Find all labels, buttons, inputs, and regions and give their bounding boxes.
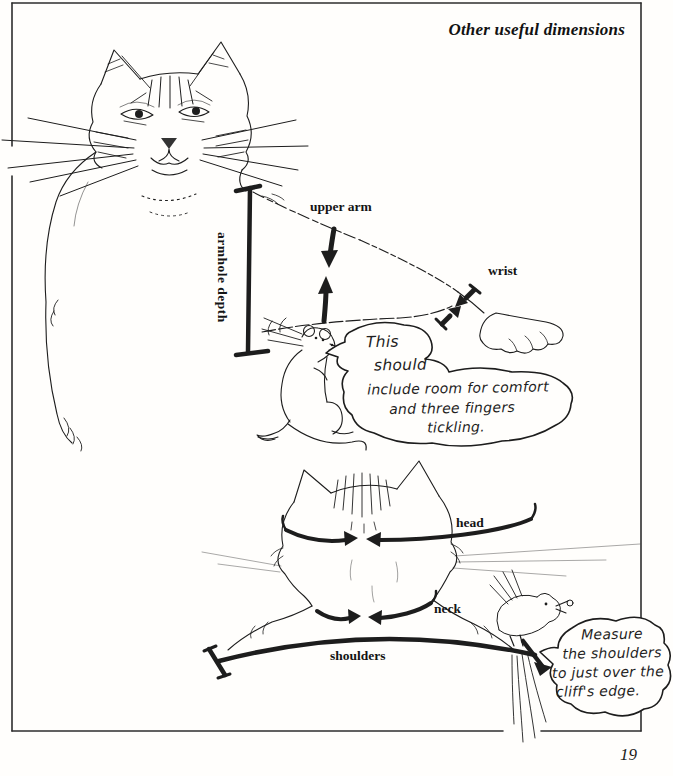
neck-dimension-line: [317, 591, 436, 625]
page-number: 19: [620, 745, 637, 765]
bird-bubble-line-1: Measure: [581, 625, 643, 642]
bird-bubble-line-3: to just over the: [552, 663, 664, 681]
label-upper-arm: upper arm: [310, 199, 372, 215]
book-page: Other useful dimensions armhole depth up…: [0, 0, 673, 776]
mouse-bubble-line-3: include room for comfort: [367, 378, 549, 397]
label-head: head: [456, 515, 484, 531]
head-dimension-line: [282, 504, 535, 547]
cat-back-illustration: [202, 461, 640, 650]
label-armhole-depth: armhole depth: [214, 232, 230, 323]
mouse-bubble-line-4: and three fingers: [389, 399, 515, 417]
bird-bubble-line-2: the shoulders: [562, 644, 662, 662]
mouse-bubble-line-2: should: [374, 356, 427, 375]
label-wrist: wrist: [488, 263, 517, 279]
upper-arm-arrows: [318, 229, 338, 321]
mouse-bubble-line-5: tickling.: [427, 418, 485, 435]
bird-bubble-line-4: cliff's edge.: [556, 682, 641, 699]
label-neck: neck: [434, 601, 461, 617]
label-shoulders: shoulders: [330, 648, 386, 664]
mouse-bubble-line-1: This: [366, 333, 399, 352]
page-title: Other useful dimensions: [448, 20, 625, 40]
frame-border: [12, 3, 641, 731]
